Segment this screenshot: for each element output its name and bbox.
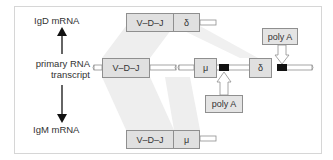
transcript-vdj-segment: V–D–J <box>102 58 150 78</box>
arrow-down-icon <box>57 114 67 123</box>
polya-marker-delta <box>277 64 287 71</box>
igm-mu-segment: μ <box>173 130 200 149</box>
polya-upper-label: poly A <box>262 28 298 45</box>
polya-upper-arrow-icon <box>275 45 289 64</box>
polya-lower-label: poly A <box>205 95 243 113</box>
splice-band-igm-vdj <box>102 77 174 130</box>
label-igd-mrna: IgD mRNA <box>34 15 79 26</box>
polya-lower-arrow-icon <box>217 72 231 95</box>
igd-vdj-segment: V–D–J <box>126 13 174 32</box>
polya-marker-mu <box>219 64 229 71</box>
igm-vdj-segment: V–D–J <box>126 130 174 149</box>
label-igm-mrna: IgM mRNA <box>33 124 79 135</box>
transcript-delta-segment: δ <box>249 58 272 78</box>
transcript-mu-segment: μ <box>194 58 217 78</box>
igd-delta-segment: δ <box>173 13 200 32</box>
igd-tail <box>200 20 216 25</box>
label-primary-transcript-line1: primary RNA <box>17 58 90 69</box>
igm-tail <box>200 136 216 141</box>
label-primary-transcript-line2: transcript <box>17 69 90 80</box>
arrow-up-icon <box>57 27 67 36</box>
